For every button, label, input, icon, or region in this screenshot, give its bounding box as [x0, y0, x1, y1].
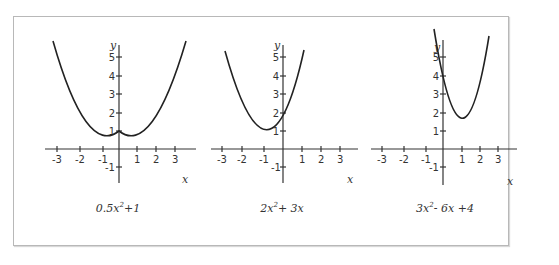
x-tick-labels: -3 -2 -1 1 2 3	[52, 154, 178, 165]
y-tick-labels: 5 4 3 2 1 -1	[271, 52, 281, 173]
graph-1: -3 -2 -1 1 2 3 5 4 3 2 1 -1 y x	[45, 39, 196, 186]
svg-text:2: 2	[273, 108, 279, 119]
svg-text:3: 3	[433, 89, 439, 100]
x-tick-labels: -3 -2 -1 1 2 3	[377, 154, 501, 165]
svg-text:3: 3	[273, 89, 279, 100]
svg-text:1: 1	[299, 154, 305, 165]
svg-text:3: 3	[172, 154, 178, 165]
y-axis	[440, 40, 446, 185]
curve	[434, 29, 489, 118]
svg-text:-3: -3	[52, 154, 62, 165]
plots-canvas: -3 -2 -1 1 2 3 5 4 3 2 1 -1 y x	[0, 0, 559, 265]
svg-text:5: 5	[109, 52, 115, 63]
x-axis	[45, 146, 196, 152]
svg-text:-1: -1	[259, 154, 269, 165]
svg-text:-1: -1	[105, 162, 115, 173]
svg-text:3: 3	[337, 154, 343, 165]
svg-text:1: 1	[433, 126, 439, 137]
svg-text:3: 3	[109, 89, 115, 100]
graph-2: -3 -2 -1 1 2 3 5 4 3 2 1 -1 y x	[211, 39, 358, 186]
svg-text:2: 2	[433, 108, 439, 119]
y-axis	[116, 45, 122, 183]
y-axis-label: y	[109, 39, 117, 52]
svg-text:4: 4	[109, 71, 115, 82]
x-axis-label: x	[507, 175, 514, 188]
caption-graph-1: 0.5x2+1	[48, 201, 188, 215]
x-axis	[371, 146, 517, 152]
svg-text:3: 3	[495, 154, 501, 165]
x-axis	[211, 146, 358, 152]
svg-text:2: 2	[477, 154, 483, 165]
graph-3: -3 -2 -1 1 2 3 5 4 3 2 1 -1 y x	[371, 29, 517, 188]
svg-text:-1: -1	[429, 162, 439, 173]
svg-text:-2: -2	[75, 154, 85, 165]
x-axis-label: x	[182, 173, 189, 186]
curve	[225, 50, 304, 130]
svg-text:2: 2	[153, 154, 159, 165]
svg-text:1: 1	[134, 154, 140, 165]
svg-text:5: 5	[273, 52, 279, 63]
svg-text:-3: -3	[217, 154, 227, 165]
caption-graph-2: 2x2+ 3x	[212, 201, 352, 215]
svg-text:-2: -2	[237, 154, 247, 165]
x-axis-label: x	[347, 173, 354, 186]
svg-text:2: 2	[318, 154, 324, 165]
svg-text:-2: -2	[399, 154, 409, 165]
svg-text:4: 4	[433, 71, 439, 82]
svg-text:2: 2	[109, 108, 115, 119]
svg-text:-1: -1	[271, 162, 281, 173]
svg-text:-3: -3	[377, 154, 387, 165]
svg-text:4: 4	[273, 71, 279, 82]
y-axis-label: y	[273, 39, 281, 52]
svg-text:1: 1	[459, 154, 465, 165]
caption-graph-3: 3x2- 6x +4	[375, 201, 515, 215]
